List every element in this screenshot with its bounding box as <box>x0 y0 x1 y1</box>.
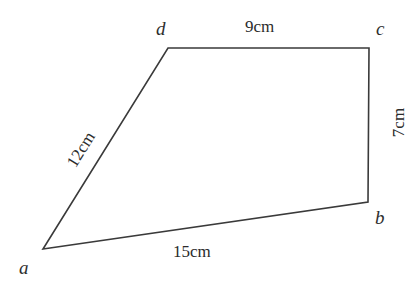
side-length-label-dc: 9cm <box>245 18 274 35</box>
side-length-label-bc: 7cm <box>390 108 407 137</box>
vertex-label-d: d <box>156 19 166 38</box>
vertex-label-c: c <box>376 19 384 38</box>
vertex-label-b: b <box>375 208 385 227</box>
vertex-label-a: a <box>19 258 29 277</box>
side-length-label-ab: 15cm <box>173 243 211 260</box>
geometry-figure: a b c d 15cm 7cm 9cm 12cm <box>0 0 416 284</box>
